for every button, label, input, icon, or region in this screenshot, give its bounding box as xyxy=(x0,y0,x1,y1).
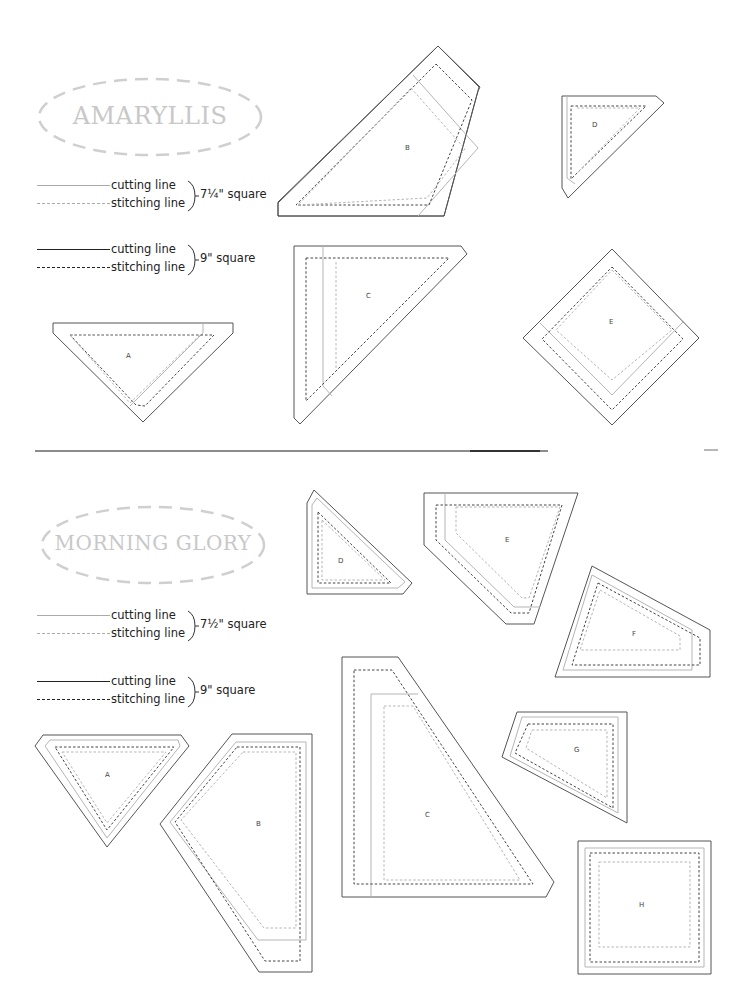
legend-label: stitching line xyxy=(111,625,185,641)
legend-label: cutting line xyxy=(111,673,176,689)
brace-icon xyxy=(185,610,199,642)
piece-label: E xyxy=(505,536,509,544)
legend-size: 9" square xyxy=(200,683,255,697)
legend-label: cutting line xyxy=(111,607,176,623)
morning-glory-piece-d: D xyxy=(307,490,412,594)
stitching-line-sample xyxy=(37,267,110,268)
morning-glory-piece-g: G xyxy=(502,712,627,823)
amaryllis-piece-a: A xyxy=(53,323,233,422)
amaryllis-piece-d: D xyxy=(562,96,664,198)
piece-label: A xyxy=(105,771,110,779)
morning-glory-piece-a: A xyxy=(35,735,189,847)
piece-label: D xyxy=(592,121,597,129)
brace-icon xyxy=(185,244,199,276)
piece-label: B xyxy=(256,820,261,828)
amaryllis-piece-e: E xyxy=(523,249,699,425)
brace-icon xyxy=(185,180,199,212)
piece-label: C xyxy=(425,811,430,819)
morning-glory-badge: MORNING GLORY xyxy=(42,507,264,583)
morning-glory-piece-f: F xyxy=(555,566,710,677)
morning-glory-piece-b: B xyxy=(160,734,312,972)
section-title: AMARYLLIS xyxy=(39,102,261,130)
amaryllis-piece-b: B xyxy=(278,46,480,216)
legend-morning-glory-large: cutting line stitching line 9" square xyxy=(37,673,267,713)
legend-label: stitching line xyxy=(111,691,185,707)
piece-label: F xyxy=(632,630,636,638)
cutting-line-sample xyxy=(37,681,110,682)
legend-size: 9" square xyxy=(200,251,255,265)
piece-label: A xyxy=(126,352,131,360)
piece-label: E xyxy=(609,318,613,326)
morning-glory-piece-h: H xyxy=(578,841,711,974)
morning-glory-piece-e: E xyxy=(424,493,578,624)
piece-label: G xyxy=(574,746,579,754)
brace-icon xyxy=(185,676,199,708)
legend-morning-glory-small: cutting line stitching line 7½" square xyxy=(37,607,267,647)
piece-label: C xyxy=(366,292,371,300)
cutting-line-sample xyxy=(37,185,110,186)
stitching-line-sample xyxy=(37,633,110,634)
legend-label: stitching line xyxy=(111,259,185,275)
stitching-line-sample xyxy=(37,203,110,204)
stitching-line-sample xyxy=(37,699,110,700)
legend-label: stitching line xyxy=(111,195,185,211)
legend-label: cutting line xyxy=(111,177,176,193)
legend-amaryllis-small: cutting line stitching line 7¼" square xyxy=(37,177,267,217)
amaryllis-piece-c: C xyxy=(294,246,467,424)
legend-label: cutting line xyxy=(111,241,176,257)
amaryllis-badge: AMARYLLIS xyxy=(39,79,261,155)
piece-label: B xyxy=(405,144,410,152)
section-title: MORNING GLORY xyxy=(42,531,264,555)
cutting-line-sample xyxy=(37,615,110,616)
piece-label: D xyxy=(338,557,343,565)
legend-size: 7½" square xyxy=(200,617,267,631)
legend-amaryllis-large: cutting line stitching line 9" square xyxy=(37,241,267,281)
cutting-line-sample xyxy=(37,249,110,250)
morning-glory-piece-c: C xyxy=(342,657,554,897)
piece-label: H xyxy=(639,901,644,909)
legend-size: 7¼" square xyxy=(200,187,267,201)
template-page: .cd { fill: none; stroke: #555; stroke-w… xyxy=(0,0,747,988)
